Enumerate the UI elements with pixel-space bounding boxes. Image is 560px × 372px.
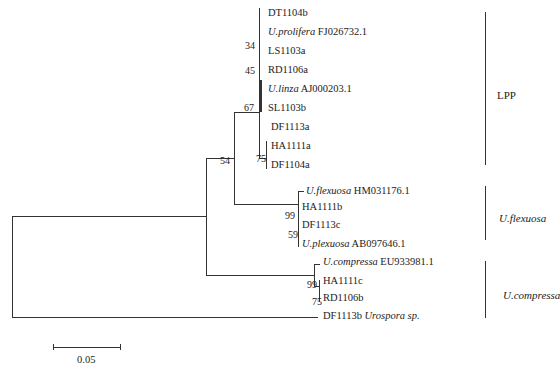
clade-bar-flexuosa <box>485 186 486 240</box>
branch-urospora <box>12 317 318 318</box>
leaf-label: DF1113b Urospora sp. <box>323 310 420 322</box>
leaf-label: DF1104a <box>271 159 310 171</box>
leaf-label: U.flexuosa HM031176.1 <box>306 185 410 197</box>
leaf-label: HA1111b <box>302 201 342 213</box>
clade-label-compressa: U.compressa <box>503 289 560 301</box>
branch-root-upper <box>12 216 206 217</box>
branch-compressa-stem <box>206 275 314 276</box>
branch-node54-vertical <box>234 112 235 204</box>
clade-label-lpp: LPP <box>497 89 516 101</box>
branch-compressa-tip <box>314 264 320 265</box>
branch-flexuosa-stem <box>234 204 298 205</box>
bootstrap-value: 54 <box>220 155 230 166</box>
bootstrap-value: 45 <box>245 65 255 76</box>
bootstrap-value: 75 <box>256 153 266 164</box>
leaf-label: HA1111c <box>323 275 363 287</box>
clade-bar-lpp <box>485 12 486 165</box>
leaf-label: DF1113c <box>302 219 340 231</box>
bootstrap-value: 34 <box>245 40 255 51</box>
scale-bar-line <box>53 347 120 348</box>
leaf-label: U.prolifera FJ026732.1 <box>268 26 367 38</box>
leaf-label: HA1111a <box>271 140 311 152</box>
clade-bar-compressa <box>485 261 486 318</box>
leaf-label: U.compressa EU933981.1 <box>323 256 434 268</box>
leaf-label: DF1113a <box>271 121 309 133</box>
leaf-label: SL1103b <box>268 102 306 114</box>
leaf-label: LS1103a <box>268 45 306 57</box>
leaf-label: RD1106b <box>323 292 363 304</box>
bootstrap-value: 59 <box>288 229 298 240</box>
leaf-label: RD1106a <box>268 64 308 76</box>
branch-lpp-sub-vertical <box>266 141 267 169</box>
bootstrap-value: 75 <box>312 296 322 307</box>
clade-label-flexuosa: U.flexuosa <box>499 212 546 224</box>
scale-bar-tick-left <box>53 344 54 350</box>
branch-flexuosa-tip <box>298 191 304 192</box>
leaf-label: U.plexuosa AB097646.1 <box>302 238 406 250</box>
scale-bar-label: 0.05 <box>77 354 95 365</box>
leaf-label: DT1104b <box>268 7 308 19</box>
branch-root-vertical <box>12 216 13 318</box>
bootstrap-value: 99 <box>307 279 317 290</box>
leaf-label: U.linza AJ000203.1 <box>268 83 352 95</box>
branch-flexuosa-vertical <box>298 191 299 247</box>
bootstrap-value: 99 <box>285 210 295 221</box>
branch-nodeA-vertical <box>206 158 207 275</box>
bootstrap-value: 67 <box>244 102 254 113</box>
scale-bar-tick-right <box>120 344 121 350</box>
branch-lpp-thick <box>260 80 262 112</box>
